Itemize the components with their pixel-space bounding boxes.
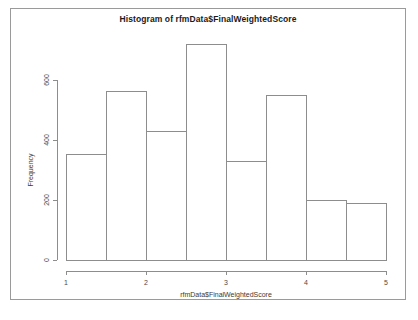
y-tick-label-0: 0 <box>43 258 50 262</box>
histogram-bar <box>226 161 266 260</box>
x-tick-label-2: 2 <box>144 279 148 286</box>
plot-frame: Histogram of rfmData$FinalWeightedScore … <box>10 8 406 300</box>
histogram-bar <box>266 95 306 260</box>
y-tick-label-200: 200 <box>43 194 50 206</box>
histogram-bar <box>186 44 226 260</box>
histogram-bars <box>66 44 386 260</box>
histogram-bar <box>146 131 186 260</box>
histogram-bar <box>106 91 146 260</box>
histogram-bar <box>66 154 106 260</box>
x-tick-label-5: 5 <box>384 279 388 286</box>
y-axis-title: Frequency <box>27 153 35 187</box>
x-tick-label-4: 4 <box>304 279 308 286</box>
histogram-plot-area: 600 400 200 0 Frequency 1 2 3 4 5 rfmDat… <box>11 9 405 299</box>
y-tick-label-600: 600 <box>43 74 50 86</box>
x-tick-label-3: 3 <box>224 279 228 286</box>
x-tick-label-1: 1 <box>64 279 68 286</box>
histogram-bar <box>346 203 386 260</box>
y-tick-label-400: 400 <box>43 134 50 146</box>
histogram-bar <box>306 201 346 260</box>
x-axis-title: rfmData$FinalWeightedScore <box>180 291 272 299</box>
